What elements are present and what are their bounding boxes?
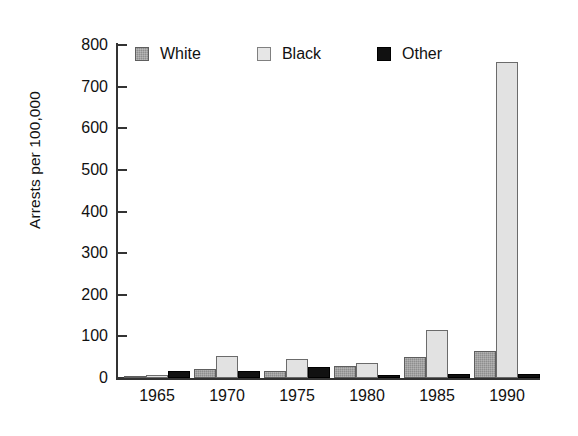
y-axis-title: Arrests per 100,000	[24, 0, 46, 330]
plot-area	[118, 45, 538, 378]
legend-item-other: Other	[377, 46, 442, 62]
bar-white-1980	[334, 366, 356, 378]
bar-white-1985	[404, 357, 426, 378]
legend-swatch-icon	[377, 47, 391, 61]
legend-swatch-icon	[257, 47, 271, 61]
bar-black-1990	[496, 62, 518, 378]
y-axis-tick-label: 700	[56, 79, 108, 95]
chart-legend: WhiteBlackOther	[135, 42, 442, 66]
legend-label: Other	[402, 46, 442, 62]
bar-other-1990	[518, 374, 540, 378]
bar-other-1965	[168, 371, 190, 378]
y-axis-tick-label: 800	[56, 37, 108, 53]
bar-black-1980	[356, 363, 378, 378]
bar-other-1985	[448, 374, 470, 378]
x-axis-tick-label: 1965	[122, 386, 192, 406]
y-axis-tick-label: 300	[56, 245, 108, 261]
legend-label: White	[160, 46, 201, 62]
bar-black-1975	[286, 359, 308, 378]
x-axis-tick-label: 1980	[332, 386, 402, 406]
x-axis-tick-label: 1990	[472, 386, 542, 406]
x-axis-tick-labels: 196519701975198019851990	[118, 386, 538, 412]
bar-other-1980	[378, 375, 400, 378]
bar-white-1975	[264, 371, 286, 378]
x-axis-tick-label: 1970	[192, 386, 262, 406]
bar-black-1965	[146, 375, 168, 378]
bar-white-1965	[124, 376, 146, 378]
y-axis-tick-label: 200	[56, 287, 108, 303]
legend-label: Black	[282, 46, 321, 62]
x-axis-tick-label: 1985	[402, 386, 472, 406]
y-axis-tick-label: 100	[56, 328, 108, 344]
y-axis-tick-labels: 0100200300400500600700800	[50, 0, 108, 436]
y-axis-tick-label: 0	[56, 370, 108, 386]
legend-item-white: White	[135, 46, 201, 62]
y-axis-tick-label: 500	[56, 162, 108, 178]
bar-chart: Arrests per 100,000 01002003004005006007…	[0, 0, 578, 436]
bar-black-1970	[216, 356, 238, 378]
bar-other-1975	[308, 367, 330, 378]
x-axis-tick-label: 1975	[262, 386, 332, 406]
bar-white-1970	[194, 369, 216, 378]
y-axis-tick-label: 400	[56, 204, 108, 220]
bar-white-1990	[474, 351, 496, 378]
x-axis-line	[116, 378, 540, 380]
legend-swatch-icon	[135, 47, 149, 61]
y-axis-tick-label: 600	[56, 120, 108, 136]
legend-item-black: Black	[257, 46, 321, 62]
bar-other-1970	[238, 371, 260, 378]
bar-black-1985	[426, 330, 448, 378]
